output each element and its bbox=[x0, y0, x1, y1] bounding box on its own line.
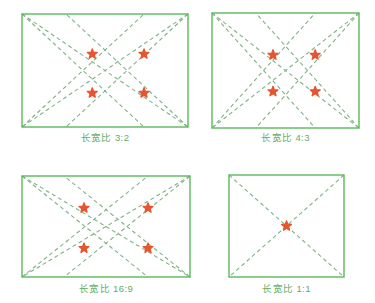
panel-plot-1-1 bbox=[0, 0, 375, 303]
aspect-ratio-diagram-root: 长宽比 3:2长宽比 4:3长宽比 16:9长宽比 1:1 bbox=[0, 0, 375, 303]
panel-caption-1-1: 长宽比 1:1 bbox=[229, 283, 344, 295]
panel-grid: 长宽比 3:2长宽比 4:3长宽比 16:9长宽比 1:1 bbox=[0, 0, 375, 303]
panel-1-1: 长宽比 1:1 bbox=[0, 0, 375, 303]
